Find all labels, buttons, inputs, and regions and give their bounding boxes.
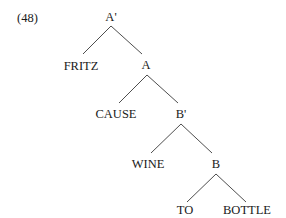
edge-bprime-b — [181, 124, 212, 153]
edge-a-cause — [119, 75, 147, 103]
edge-b-bottle — [216, 174, 246, 202]
syntax-tree-diagram: (48) A' FRITZ A CAUSE B' WINE B TO BOTTL… — [0, 0, 286, 218]
edge-bprime-wine — [151, 124, 181, 153]
example-number: (48) — [17, 11, 38, 25]
node-bottle: BOTTLE — [223, 203, 271, 217]
node-b-prime: B' — [176, 107, 187, 121]
node-to: TO — [177, 203, 193, 217]
node-cause: CAUSE — [96, 107, 137, 121]
node-a-prime: A' — [105, 10, 116, 24]
edge-a-bprime — [147, 75, 178, 103]
edge-aprime-a — [111, 26, 142, 54]
node-b: B — [212, 157, 220, 171]
edge-b-to — [187, 174, 216, 202]
edge-aprime-fritz — [83, 26, 111, 54]
node-a: A — [141, 58, 150, 72]
node-wine: WINE — [132, 157, 165, 171]
node-fritz: FRITZ — [64, 59, 99, 73]
